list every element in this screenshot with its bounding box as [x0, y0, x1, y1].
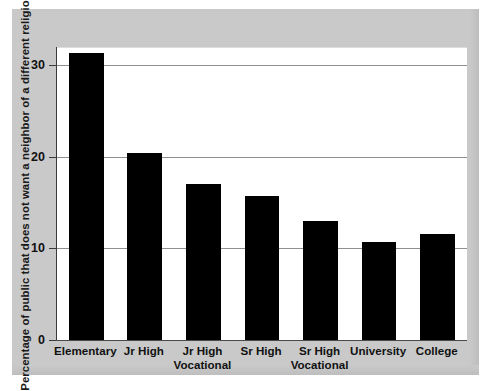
plot-area — [56, 47, 467, 340]
bar[interactable] — [362, 242, 397, 340]
x-axis-baseline — [56, 340, 467, 341]
x-tick-label-line: Vocational — [171, 358, 234, 372]
x-tick-label: University — [347, 344, 410, 358]
x-tick-label-line: Jr High — [171, 344, 234, 358]
y-tick-mark-0 — [49, 340, 56, 341]
x-tick-label-line: Elementary — [54, 344, 117, 358]
x-tick-label: Jr High — [112, 344, 175, 358]
y-tick-mark-30 — [49, 65, 56, 66]
x-tick-label-line: Jr High — [112, 344, 175, 358]
gridline-30 — [57, 65, 467, 66]
x-tick-label-line: Vocational — [288, 358, 351, 372]
x-tick-label: Sr HighVocational — [288, 344, 351, 371]
bar[interactable] — [186, 184, 221, 340]
plot-top-edge — [57, 47, 467, 48]
bar[interactable] — [303, 221, 338, 340]
panel-edge-right — [470, 9, 479, 375]
y-tick-mark-20 — [49, 157, 56, 158]
x-tick-label: Jr HighVocational — [171, 344, 234, 371]
x-tick-label-line: University — [347, 344, 410, 358]
y-tick-label-0: 0 — [10, 333, 45, 347]
y-tick-mark-10 — [49, 248, 56, 249]
bar[interactable] — [420, 234, 455, 340]
x-tick-label: Elementary — [54, 344, 117, 358]
x-tick-label-line: College — [405, 344, 468, 358]
y-tick-label-10: 10 — [10, 241, 45, 255]
bar[interactable] — [245, 196, 280, 340]
x-tick-label-line: Sr High — [288, 344, 351, 358]
bar[interactable] — [69, 53, 104, 340]
x-tick-label: College — [405, 344, 468, 358]
x-tick-label: Sr High — [229, 344, 292, 358]
y-tick-label-30: 30 — [10, 58, 45, 72]
x-tick-label-line: Sr High — [229, 344, 292, 358]
bar[interactable] — [127, 153, 162, 340]
gridline-20 — [57, 157, 467, 158]
panel-edge-bottom — [12, 365, 479, 375]
y-tick-label-20: 20 — [10, 150, 45, 164]
